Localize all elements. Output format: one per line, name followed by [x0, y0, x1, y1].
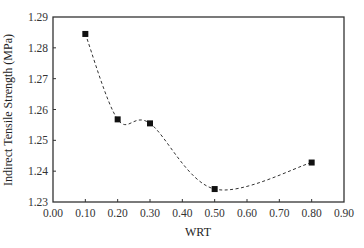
y-axis-ticks: 1.231.241.251.261.271.281.29	[28, 11, 56, 208]
x-tick-label: 0.30	[140, 207, 160, 219]
dashed-trend-line	[85, 34, 311, 190]
y-tick-label: 1.28	[28, 42, 48, 54]
y-tick-label: 1.24	[28, 165, 48, 177]
x-tick-label: 0.50	[205, 207, 225, 219]
y-axis-title: Indirect Tensile Strength (MPa)	[1, 34, 15, 186]
x-axis-title: WRT	[185, 225, 212, 239]
y-tick-label: 1.29	[28, 11, 48, 23]
x-tick-label: 0.40	[172, 207, 192, 219]
x-tick-label: 0.70	[269, 207, 289, 219]
x-tick-label: 0.20	[108, 207, 128, 219]
y-tick-label: 1.23	[28, 196, 48, 208]
x-tick-label: 0.80	[302, 207, 322, 219]
series-line	[85, 34, 311, 190]
x-tick-label: 0.60	[237, 207, 257, 219]
data-point-marker	[212, 186, 218, 192]
series-markers	[82, 31, 314, 192]
data-point-marker	[82, 31, 88, 37]
x-tick-label: 0.90	[334, 207, 354, 219]
plot-border	[53, 17, 344, 202]
data-point-marker	[115, 116, 121, 122]
y-tick-label: 1.27	[28, 73, 48, 85]
x-tick-label: 0.10	[75, 207, 95, 219]
x-tick-label: 0.00	[43, 207, 63, 219]
data-point-marker	[147, 120, 153, 126]
y-tick-label: 1.25	[28, 134, 48, 146]
chart: 0.000.100.200.300.400.500.600.700.800.90…	[0, 0, 364, 248]
plot-frame	[53, 17, 344, 202]
y-tick-label: 1.26	[28, 104, 48, 116]
data-point-marker	[309, 160, 315, 166]
